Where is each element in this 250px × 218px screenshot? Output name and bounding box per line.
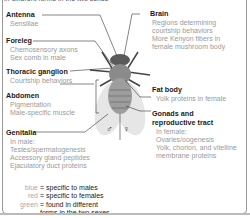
gonads-detail: membrane proteins xyxy=(156,152,216,160)
abdomen-detail: Male-specific muscle xyxy=(10,109,75,117)
thoracic-detail: Courtship behaviors xyxy=(10,77,72,85)
label-abdomen: Abdomen xyxy=(6,92,39,100)
fat-body-detail: Yolk proteins in female xyxy=(156,95,226,103)
antenna-detail: Sensillae xyxy=(10,20,38,28)
female-symbol: ♀ xyxy=(123,125,130,133)
label-gonads-2: reproductive tract xyxy=(152,119,213,127)
label-foreleg: Foreleg xyxy=(6,37,32,45)
label-fat-body: Fat body xyxy=(152,86,182,94)
brain-detail: female mushroom body xyxy=(152,43,225,51)
label-genitalia: Genitalia xyxy=(6,129,36,137)
foreleg-detail: Sex comb in male xyxy=(10,54,66,62)
legend-row: red = specific to females xyxy=(14,192,110,200)
bottom-border xyxy=(0,213,250,215)
legend-row: blue = specific to males xyxy=(14,184,110,192)
legend-row: green = found in different xyxy=(14,201,110,209)
label-thoracic-ganglion: Thoracic ganglion xyxy=(6,68,68,76)
label-antenna: Antenna xyxy=(6,11,35,19)
label-brain: Brain xyxy=(150,10,168,18)
male-symbol: ♂ xyxy=(106,125,113,133)
genitalia-detail: Ejaculatory duct proteins xyxy=(10,162,87,170)
